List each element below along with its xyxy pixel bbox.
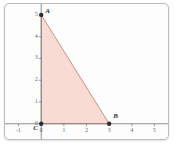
y-tick-label: 4: [35, 34, 38, 40]
x-tick-label: 2: [85, 128, 88, 134]
x-tick-label: 1: [62, 128, 65, 134]
x-tick-label: 4: [130, 128, 133, 134]
x-tick-label: 3: [108, 128, 111, 134]
y-tick-label: 5: [35, 12, 38, 18]
y-tick-label: 0: [35, 121, 38, 127]
y-tick-label: 3: [35, 56, 38, 62]
x-tick-label: 5: [153, 128, 156, 134]
y-tick-label: 2: [35, 77, 38, 83]
x-tick-label: 0: [40, 128, 43, 134]
y-tick-label: 1: [35, 99, 38, 105]
figure-card: A B C -1012345 012345: [4, 3, 169, 140]
triangle-abc-shape: [41, 15, 109, 124]
plot-layers: [5, 4, 168, 139]
point-label-b: B: [113, 113, 118, 120]
x-tick-label: -1: [16, 128, 21, 134]
point-label-a: A: [45, 8, 50, 15]
coordinate-plot: [5, 4, 168, 139]
